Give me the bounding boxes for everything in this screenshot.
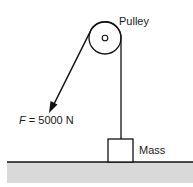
- force-arrow-shaft: [53, 32, 90, 106]
- force-value: = 5000 N: [26, 114, 74, 126]
- force-arrowhead-icon: [49, 101, 58, 113]
- pulley-diagram: Pulley F = 5000 N Mass: [0, 0, 193, 187]
- mass-box: [108, 139, 133, 162]
- pulley-label: Pulley: [119, 15, 149, 27]
- mass-label: Mass: [139, 144, 166, 156]
- force-label: F = 5000 N: [19, 114, 74, 126]
- pulley-axle-icon: [102, 35, 108, 41]
- ground-fill: [7, 162, 193, 183]
